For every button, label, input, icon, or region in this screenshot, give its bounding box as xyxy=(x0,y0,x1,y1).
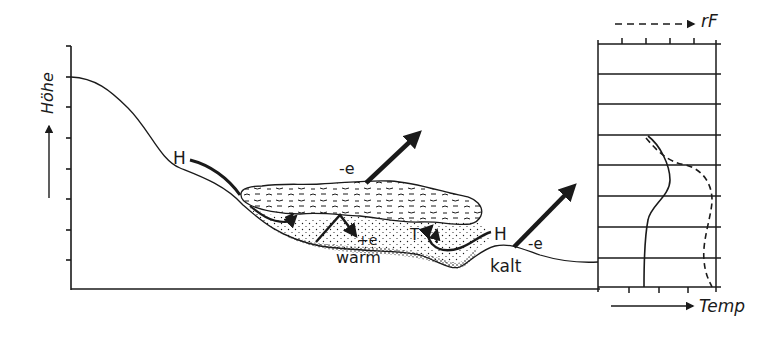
humidity-curve xyxy=(646,138,712,287)
label-e-kalt: -e xyxy=(528,237,543,252)
rf-axis-label: rF xyxy=(701,13,718,30)
label-t-marker: T xyxy=(410,228,419,243)
height-axis-label: Höhe xyxy=(40,72,56,114)
temperature-curve xyxy=(644,136,670,287)
label-h-left: H xyxy=(173,150,186,167)
label-warm: warm xyxy=(336,250,381,266)
label-e-fog: -e xyxy=(339,161,355,177)
diagram-canvas xyxy=(0,0,768,339)
katabatic-flow-left xyxy=(190,160,240,195)
label-kalt: kalt xyxy=(490,258,521,275)
left-axis xyxy=(66,46,600,290)
label-e-warm: +e xyxy=(357,233,377,247)
valley-diagram: Höhe H -e +e warm T H -e kalt rF Temp xyxy=(0,0,768,339)
evaporation-arrow-fog xyxy=(366,135,417,183)
evaporation-arrow-kalt xyxy=(514,188,572,247)
temp-axis-label: Temp xyxy=(699,298,745,315)
label-h-right: H xyxy=(494,226,507,243)
profile-panel xyxy=(598,38,721,293)
